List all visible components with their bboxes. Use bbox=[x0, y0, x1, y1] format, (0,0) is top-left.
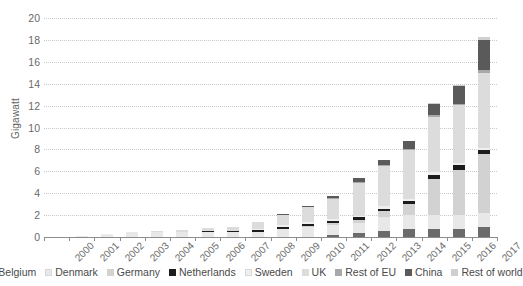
x-axis-tick-label: 2015 bbox=[450, 240, 474, 264]
x-axis-tick-mark bbox=[321, 237, 322, 241]
bar-column[interactable] bbox=[478, 37, 490, 237]
x-axis-tick-mark bbox=[69, 237, 70, 241]
plot-area bbox=[44, 18, 497, 237]
bar-segment bbox=[478, 40, 490, 71]
legend-label: China bbox=[415, 266, 442, 278]
x-axis-tick-mark bbox=[195, 237, 196, 241]
x-axis-tick-mark bbox=[346, 237, 347, 241]
x-axis-tick-mark bbox=[371, 237, 372, 241]
gridline bbox=[44, 40, 497, 41]
x-axis-tick-mark bbox=[271, 237, 272, 241]
bar-segment bbox=[277, 229, 289, 236]
x-axis-tick-mark bbox=[120, 237, 121, 241]
x-axis-tick-label: 2010 bbox=[324, 240, 348, 264]
legend-swatch-icon bbox=[302, 269, 309, 276]
x-axis-tick-label: 2001 bbox=[97, 240, 121, 264]
bar-column[interactable] bbox=[453, 85, 465, 238]
bar-segment bbox=[428, 179, 440, 215]
y-axis-tick-label: 2 bbox=[0, 210, 40, 221]
legend-item[interactable]: China bbox=[405, 266, 442, 278]
bar-segment bbox=[478, 73, 490, 148]
x-axis-tick-label: 2000 bbox=[72, 240, 96, 264]
bar-segment bbox=[378, 166, 390, 207]
bar-segment bbox=[403, 215, 415, 229]
x-axis-tick-label: 2008 bbox=[273, 240, 297, 264]
bar-segment bbox=[327, 225, 339, 235]
bar-column[interactable] bbox=[277, 214, 289, 237]
legend-item[interactable]: Belgium bbox=[0, 266, 36, 278]
legend-label: Rest of EU bbox=[345, 266, 396, 278]
bar-column[interactable] bbox=[176, 230, 188, 237]
y-axis-tick-label: 14 bbox=[0, 78, 40, 89]
x-axis-tick-label: 2003 bbox=[148, 240, 172, 264]
x-axis-tick-label: 2017 bbox=[500, 240, 523, 264]
legend-item[interactable]: Germany bbox=[107, 266, 160, 278]
bar-segment bbox=[428, 117, 440, 173]
legend-swatch-icon bbox=[245, 269, 252, 276]
bar-column[interactable] bbox=[353, 178, 365, 237]
bar-segment bbox=[453, 170, 465, 215]
bar-segment bbox=[428, 104, 440, 115]
legend-swatch-icon bbox=[451, 269, 458, 276]
legend-item[interactable]: Rest of world bbox=[451, 266, 522, 278]
gridline bbox=[44, 18, 497, 19]
legend-swatch-icon bbox=[335, 269, 342, 276]
legend-swatch-icon bbox=[107, 269, 114, 276]
legend-item[interactable]: Rest of EU bbox=[335, 266, 396, 278]
x-axis-tick-label: 2012 bbox=[374, 240, 398, 264]
x-axis-tick-label: 2013 bbox=[399, 240, 423, 264]
bar-segment bbox=[453, 229, 465, 237]
x-axis-tick-label: 2002 bbox=[122, 240, 146, 264]
x-axis-tick-label: 2005 bbox=[198, 240, 222, 264]
bar-segment bbox=[453, 105, 465, 163]
legend-label: Germany bbox=[117, 266, 160, 278]
bar-segment bbox=[353, 183, 365, 216]
bar-column[interactable] bbox=[227, 227, 239, 237]
legend-swatch-icon bbox=[169, 269, 176, 276]
bar-segment bbox=[378, 217, 390, 231]
bar-column[interactable] bbox=[202, 228, 214, 237]
legend-swatch-icon bbox=[45, 269, 52, 276]
bar-column[interactable] bbox=[428, 103, 440, 237]
legend-item[interactable]: UK bbox=[302, 266, 327, 278]
bar-segment bbox=[428, 229, 440, 237]
x-axis-tick-mark bbox=[44, 237, 45, 241]
y-axis-tick-label: 16 bbox=[0, 57, 40, 68]
bar-segment bbox=[428, 215, 440, 229]
x-axis-tick-mark bbox=[245, 237, 246, 241]
x-axis-tick-mark bbox=[422, 237, 423, 241]
bar-segment bbox=[327, 199, 339, 219]
y-axis-tick-label: 20 bbox=[0, 13, 40, 24]
x-axis-tick-label: 2007 bbox=[248, 240, 272, 264]
gridline bbox=[44, 62, 497, 63]
bar-segment bbox=[478, 227, 490, 237]
x-axis-tick-label: 2006 bbox=[223, 240, 247, 264]
x-axis-tick-mark bbox=[472, 237, 473, 241]
bar-segment bbox=[453, 215, 465, 229]
legend-item[interactable]: Denmark bbox=[45, 266, 98, 278]
bar-segment bbox=[302, 227, 314, 237]
y-axis-tick-label: 6 bbox=[0, 166, 40, 177]
legend-label: UK bbox=[312, 266, 327, 278]
bar-segment bbox=[403, 150, 415, 199]
bar-segment bbox=[478, 213, 490, 227]
y-axis-tick-label: 0 bbox=[0, 232, 40, 243]
y-axis-tick-labels: 02468101214161820 bbox=[0, 0, 40, 286]
bar-column[interactable] bbox=[327, 196, 339, 237]
legend-item[interactable]: Netherlands bbox=[169, 266, 236, 278]
x-axis-tick-label: 2014 bbox=[424, 240, 448, 264]
bar-segment bbox=[353, 223, 365, 233]
bar-column[interactable] bbox=[302, 206, 314, 237]
x-axis-tick-mark bbox=[94, 237, 95, 241]
bar-column[interactable] bbox=[403, 141, 415, 237]
bar-column[interactable] bbox=[378, 160, 390, 237]
bar-column[interactable] bbox=[252, 222, 264, 237]
legend-item[interactable]: Sweden bbox=[245, 266, 293, 278]
y-axis-tick-label: 4 bbox=[0, 188, 40, 199]
bar-segment bbox=[277, 215, 289, 225]
legend-label: Belgium bbox=[0, 266, 36, 278]
chart-legend: BelgiumDenmarkGermanyNetherlandsSwedenUK… bbox=[0, 262, 511, 282]
legend-label: Netherlands bbox=[179, 266, 236, 278]
bar-segment bbox=[403, 204, 415, 215]
